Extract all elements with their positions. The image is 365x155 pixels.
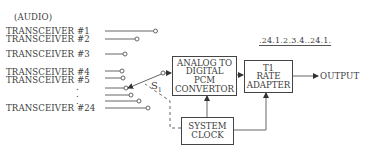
input-label-2: TRANSCEIVER #2 xyxy=(6,35,90,44)
diagram-canvas: (AUDIO) TRANSCEIVER #1 TRANSCEIVER #2 TR… xyxy=(0,0,365,155)
system-clock-block: SYSTEM CLOCK xyxy=(181,117,234,145)
audio-label: (AUDIO) xyxy=(14,13,52,22)
input-label-3: TRANSCEIVER #3 xyxy=(6,50,90,59)
switch-label: S1 xyxy=(151,80,162,94)
input-terminal-7 xyxy=(129,93,133,97)
adc-line-4: CONVERTOR xyxy=(175,85,234,94)
input-terminal-6 xyxy=(124,86,128,90)
output-label: OUTPUT xyxy=(320,72,359,81)
input-terminal-2 xyxy=(135,37,139,41)
frame-sequence-label: .24.1.2.3.4..24.1. xyxy=(259,37,331,46)
input-terminal-8 xyxy=(137,99,141,103)
t1-rate-adapter-block: T1 RATE ADAPTER xyxy=(244,60,293,93)
input-terminal-5 xyxy=(121,76,125,80)
input-terminal-1 xyxy=(154,29,158,33)
clock-line-2: CLOCK xyxy=(191,131,223,140)
clock-to-t1-line xyxy=(233,93,266,130)
adc-block: ANALOG TO DIGITAL PCM CONVERTOR xyxy=(172,56,237,96)
input-terminal-24 xyxy=(146,106,150,110)
t1-line-3: ADAPTER xyxy=(247,81,291,90)
input-terminal-4 xyxy=(120,69,124,73)
input-terminal-3 xyxy=(123,52,127,56)
input-label-24: TRANSCEIVER #24 xyxy=(6,104,95,113)
